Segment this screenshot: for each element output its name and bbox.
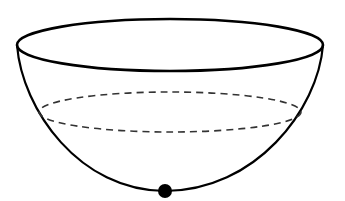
bowl-body	[17, 45, 323, 191]
ball	[158, 184, 172, 198]
dashed-level-ellipse	[39, 92, 301, 132]
bowl-rim	[17, 19, 323, 71]
bowl-diagram	[0, 0, 345, 201]
